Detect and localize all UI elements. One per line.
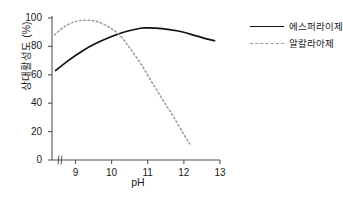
legend-label-esperase: 에스퍼라이제 [289,21,343,32]
y-tick-label-20: 20 [16,127,42,137]
x-tick-label-11: 11 [138,168,158,178]
legend-swatch-solid-line-icon [250,26,284,27]
x-tick-label-9: 9 [65,168,85,178]
series-line-dashed [55,20,192,146]
y-tick-label-40: 40 [16,98,42,108]
legend-swatch-dashed-line-icon [250,43,284,44]
series-line-solid [56,28,215,71]
legend-label-alcalase: 알칼라아제 [289,38,334,49]
y-tick-marks [48,18,52,160]
chart-figure: 상대활성도 (%) pH 020406080100 910111213 에스퍼라… [0,0,343,201]
x-tick-label-12: 12 [174,168,194,178]
chart-legend: 에스퍼라이제 알칼라아제 [250,18,343,52]
series-curves [55,20,215,146]
x-tick-label-13: 13 [210,168,230,178]
y-tick-label-60: 60 [16,70,42,80]
x-tick-marks [75,160,220,164]
y-tick-label-80: 80 [16,41,42,51]
y-tick-label-0: 0 [16,155,42,165]
legend-item-esperase: 에스퍼라이제 [250,18,343,35]
y-tick-label-100: 100 [16,13,42,23]
x-tick-label-10: 10 [102,168,122,178]
legend-item-alcalase: 알칼라아제 [250,35,343,52]
